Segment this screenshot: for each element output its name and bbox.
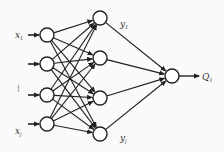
input-node-4 <box>40 117 54 131</box>
hidden-node-3 <box>93 91 107 105</box>
hidden-label-y1: y1 <box>119 19 128 30</box>
edge-input-2-hidden-0 <box>51 25 95 90</box>
output-label-q1: Q1 <box>202 72 213 83</box>
hidden-node-2 <box>93 51 107 65</box>
edge-hidden-2-output <box>107 78 165 96</box>
input-node-2 <box>40 57 54 71</box>
input-ellipsis: ...... <box>16 84 24 92</box>
edge-hidden-1-output <box>107 60 164 74</box>
edge-input-2-hidden-2 <box>54 95 92 97</box>
input-node-3 <box>40 88 54 102</box>
input-label-xj: xj <box>15 126 22 138</box>
edge-hidden-0-output <box>105 22 165 71</box>
edge-input-1-hidden-0 <box>52 23 94 59</box>
edge-input-0-hidden-1 <box>53 38 92 55</box>
output-node <box>165 69 179 83</box>
hidden-node-1 <box>93 11 107 25</box>
neural-network-diagram: x1 ...... xj y1 yj Q1 <box>0 0 224 152</box>
hidden-node-4 <box>93 127 107 141</box>
edge-input-0-hidden-0 <box>54 20 93 32</box>
hidden-label-yj: yj <box>119 133 127 145</box>
input-label-x1: x1 <box>15 30 23 41</box>
edge-input-3-hidden-3 <box>54 125 92 132</box>
input-node-1 <box>40 28 54 42</box>
edge-hidden-3-output <box>105 81 165 130</box>
